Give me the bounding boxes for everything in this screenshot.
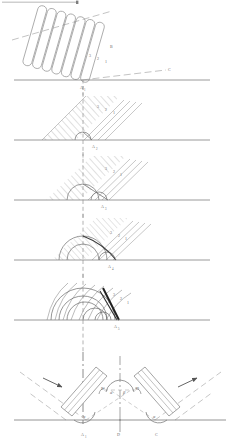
label-wavefront-1: 1 <box>120 172 122 177</box>
scan-artifact-top <box>2 1 78 4</box>
label-angle-beta-center: β <box>122 390 126 395</box>
label-point-A2: A <box>92 144 95 149</box>
panel-3: 3 2 1 A 3 <box>14 152 210 218</box>
label-wavefront-3: 3 <box>105 166 107 171</box>
label-point-A1: A <box>80 85 83 90</box>
label-angle-alpha-right: α <box>153 414 156 419</box>
figure-root: 3 2 1 B C A 1 3 2 1 A 2 <box>0 0 240 447</box>
label-wavefront-2: 2 <box>105 107 107 112</box>
guide-chords-center <box>86 390 155 420</box>
label-point-A1-subscript: 1 <box>84 88 86 92</box>
label-point-A3: A <box>101 204 104 209</box>
label-wavefront-3: 3 <box>110 230 112 235</box>
label-wavefront-3: 3 <box>113 292 115 297</box>
arrow-right-outgoing <box>178 378 197 387</box>
label-point-A2-subscript: 2 <box>96 147 98 151</box>
label-wavefront-2: 2 <box>118 233 120 238</box>
label-point-C: C <box>168 67 171 72</box>
label-wavefront-1: 1 <box>105 59 107 64</box>
label-wavefront-2: 2 <box>113 169 115 174</box>
label-point-A1: A <box>81 432 84 437</box>
label-point-A4: A <box>108 264 111 269</box>
label-point-D: D <box>136 386 139 391</box>
incident-ray-lower <box>82 70 166 80</box>
incident-ray-upper <box>12 11 112 40</box>
panel-4: 3 2 1 A 4 <box>14 214 210 278</box>
label-point-A5: A <box>114 324 117 329</box>
label-point-A1-subscript: 1 <box>85 435 87 439</box>
label-point-A5-subscript: 5 <box>118 327 120 331</box>
label-wavefront-3: 3 <box>89 53 91 58</box>
label-point-A4-subscript: 4 <box>112 267 114 271</box>
label-point-B: B <box>101 386 104 391</box>
label-wavefront-1: 1 <box>127 300 129 305</box>
label-wavefront-1: 1 <box>125 236 127 241</box>
label-wavefront-3: 3 <box>97 104 99 109</box>
label-point-B: B <box>110 44 113 49</box>
arrow-left-incoming <box>43 378 62 387</box>
panel-6: B D α β α α A 1 D C <box>14 352 226 439</box>
new-wavefront-envelope-5 <box>103 288 119 320</box>
label-angle-alpha-left: α <box>83 414 86 419</box>
wavefront-band-2 <box>42 96 120 140</box>
wave-band-left-6 <box>61 367 107 416</box>
panel-1: 3 2 1 B C A 1 <box>12 5 210 96</box>
label-point-D-base: D <box>117 432 120 437</box>
label-point-C-base: C <box>155 432 158 437</box>
label-point-A3-subscript: 3 <box>105 207 107 211</box>
label-angle-alpha-center: α <box>110 390 113 395</box>
label-wavefront-2: 2 <box>120 296 122 301</box>
panel-2: 3 2 1 A 2 <box>14 86 210 158</box>
label-wavefront-2: 2 <box>97 56 99 61</box>
huygens-wavefront-diagram: 3 2 1 B C A 1 3 2 1 A 2 <box>0 0 240 447</box>
wave-band-right-6 <box>134 367 180 416</box>
wavefront-band-3 <box>46 156 126 200</box>
label-wavefront-1: 1 <box>113 110 115 115</box>
panel-5: 3 2 1 A 5 <box>14 274 210 352</box>
